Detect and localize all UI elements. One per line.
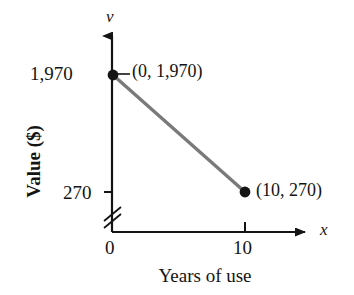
point-annotation-second: (10, 270) <box>256 181 322 199</box>
x-tick-label-0: 0 <box>105 238 115 257</box>
plot-area <box>0 0 354 295</box>
point-annotation-first: (0, 1,970) <box>132 62 203 80</box>
data-line-segment <box>113 75 245 192</box>
x-axis-title: Years of use <box>135 266 275 285</box>
x-tick-label-10: 10 <box>233 238 252 257</box>
data-point-0-1970 <box>108 70 119 81</box>
data-point-10-270 <box>240 187 251 198</box>
y-axis-variable-label: v <box>106 8 114 25</box>
y-axis-title: Value ($) <box>24 107 43 217</box>
y-tick-label-270: 270 <box>63 183 92 202</box>
x-axis-variable-label: x <box>320 221 328 238</box>
line-graph-figure: v x 1,970 270 0 10 (0, 1,970) (10, 270) … <box>0 0 354 295</box>
y-tick-label-1970: 1,970 <box>30 64 73 83</box>
